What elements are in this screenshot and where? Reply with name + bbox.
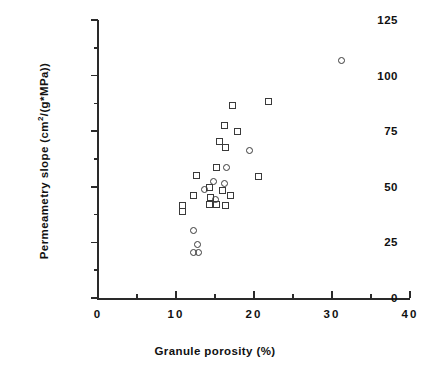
data-point-circle xyxy=(223,164,230,171)
y-tick-minor xyxy=(94,47,98,49)
y-tick-minor xyxy=(94,158,98,160)
y-tick-major xyxy=(91,130,98,132)
x-tick-minor xyxy=(292,294,294,298)
x-tick-major xyxy=(97,291,99,298)
x-tick-label: 0 xyxy=(94,308,102,320)
y-axis-label-superscript: 2 xyxy=(36,116,45,121)
x-tick-label: 10 xyxy=(168,308,185,320)
plot-area: 0255075100125 010203040 xyxy=(98,20,410,298)
y-tick-label: 50 xyxy=(384,181,398,193)
data-point-square xyxy=(179,208,186,215)
y-axis-label: Permeametry slope (cm2/(g*MPa)) xyxy=(38,31,50,291)
y-tick-label: 0 xyxy=(391,292,398,304)
y-tick-major xyxy=(91,186,98,188)
y-axis-label-suffix: /(g*MPa)) xyxy=(38,63,50,116)
y-tick-label: 25 xyxy=(384,236,398,248)
data-point-square xyxy=(221,122,228,129)
y-tick-major xyxy=(91,75,98,77)
y-tick-minor xyxy=(94,103,98,105)
data-point-square xyxy=(190,192,197,199)
data-point-circle xyxy=(195,249,202,256)
data-point-circle xyxy=(338,57,345,64)
data-point-circle xyxy=(194,241,201,248)
y-tick-major xyxy=(91,19,98,21)
scatter-chart-figure: Permeametry slope (cm2/(g*MPa)) 02550751… xyxy=(0,0,430,375)
y-tick-label: 75 xyxy=(384,125,398,137)
data-point-square xyxy=(227,192,234,199)
x-tick-major xyxy=(331,291,333,298)
x-tick-major xyxy=(253,291,255,298)
data-point-square xyxy=(222,144,229,151)
data-point-circle xyxy=(190,227,197,234)
data-point-square xyxy=(265,98,272,105)
x-axis-line xyxy=(97,298,410,300)
data-point-circle xyxy=(221,180,228,187)
data-point-circle xyxy=(246,147,253,154)
data-point-square xyxy=(219,187,226,194)
data-point-square xyxy=(229,102,236,109)
y-tick-label: 100 xyxy=(377,70,398,82)
data-point-square xyxy=(206,201,213,208)
data-point-square xyxy=(255,173,262,180)
x-tick-label: 40 xyxy=(402,308,419,320)
data-point-square xyxy=(193,172,200,179)
x-tick-label: 30 xyxy=(324,308,341,320)
data-point-square xyxy=(222,202,229,209)
data-point-circle xyxy=(201,186,208,193)
y-tick-minor xyxy=(94,214,98,216)
x-tick-minor xyxy=(370,294,372,298)
y-tick-major xyxy=(91,242,98,244)
x-tick-major xyxy=(175,291,177,298)
data-point-circle xyxy=(212,196,219,203)
data-point-circle xyxy=(210,178,217,185)
data-point-square xyxy=(213,164,220,171)
x-tick-minor xyxy=(136,294,138,298)
data-point-square xyxy=(234,128,241,135)
y-axis-label-prefix: Permeametry slope (cm xyxy=(38,121,50,259)
y-tick-label: 125 xyxy=(377,14,398,26)
y-tick-minor xyxy=(94,269,98,271)
x-axis-label: Granule porosity (%) xyxy=(0,345,430,357)
x-tick-label: 20 xyxy=(246,308,263,320)
x-tick-major xyxy=(409,291,411,298)
x-tick-minor xyxy=(214,294,216,298)
